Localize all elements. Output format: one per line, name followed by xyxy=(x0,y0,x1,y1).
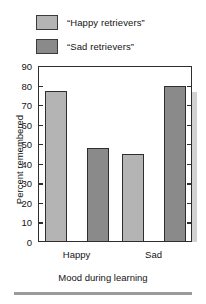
x-tick-label: Sad xyxy=(145,249,162,260)
chart-legend: “Happy retrievers” “Sad retrievers” xyxy=(36,12,186,60)
bar-sad-happy-retrievers xyxy=(122,154,144,242)
bar-sad-sad-retrievers xyxy=(164,86,186,242)
y-tick-mark-right xyxy=(187,183,192,184)
y-tick-label: 90 xyxy=(21,61,32,72)
y-axis-title: Percent remembered xyxy=(14,85,25,235)
x-axis-title: Mood during learning xyxy=(0,272,206,283)
legend-swatch-sad-retrievers xyxy=(36,39,58,54)
x-tick-label: Happy xyxy=(63,249,90,260)
legend-item-happy-retrievers: “Happy retrievers” xyxy=(36,12,186,32)
y-tick-mark-right xyxy=(187,125,192,126)
y-tick-mark-right xyxy=(187,86,192,87)
chart-figure: “Happy retrievers” “Sad retrievers” 0102… xyxy=(0,0,206,304)
y-tick-mark-left xyxy=(38,183,43,184)
y-tick-mark-left xyxy=(38,105,43,106)
y-tick-mark-right xyxy=(187,105,192,106)
bar-happy-sad-retrievers xyxy=(87,148,109,242)
y-tick-mark-left xyxy=(38,164,43,165)
bar-shadow xyxy=(186,92,197,242)
bar-shadow xyxy=(109,154,120,242)
legend-label-happy-retrievers: “Happy retrievers” xyxy=(67,17,145,28)
y-tick-mark-right xyxy=(187,144,192,145)
bar-shadow xyxy=(67,97,78,242)
legend-item-sad-retrievers: “Sad retrievers” xyxy=(36,36,186,56)
y-tick-mark-right xyxy=(187,222,192,223)
y-tick-mark-left xyxy=(38,144,43,145)
bottom-divider xyxy=(14,292,192,295)
y-tick-mark-right xyxy=(187,203,192,204)
bar-happy-happy-retrievers xyxy=(45,91,67,242)
legend-swatch-happy-retrievers xyxy=(36,15,58,30)
y-tick-mark-left xyxy=(38,222,43,223)
y-tick-mark-left xyxy=(38,203,43,204)
bar-series-container xyxy=(38,66,192,242)
plot-area xyxy=(38,66,192,242)
y-tick-mark-right xyxy=(187,164,192,165)
y-tick-mark-left xyxy=(38,86,43,87)
y-tick-mark-left xyxy=(38,125,43,126)
y-tick-label: 0 xyxy=(27,237,32,248)
bar-shadow xyxy=(144,160,155,242)
legend-label-sad-retrievers: “Sad retrievers” xyxy=(67,41,134,52)
